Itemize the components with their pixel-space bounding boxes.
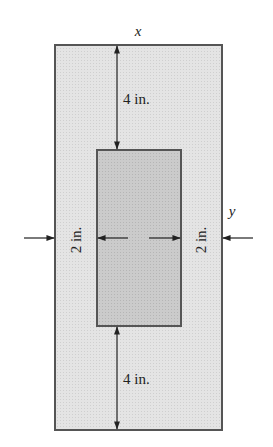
top-dimension-label: 4 in.: [123, 91, 150, 107]
right-dimension-label: 2 in.: [193, 227, 209, 254]
x-axis-label: x: [134, 23, 142, 39]
bottom-dimension-label: 4 in.: [123, 371, 150, 387]
left-dimension-label: 2 in.: [68, 227, 84, 254]
cross-section-diagram: x y 4 in. 4 in. 2 in. 2 in.: [0, 0, 273, 447]
y-axis-label: y: [227, 203, 236, 219]
